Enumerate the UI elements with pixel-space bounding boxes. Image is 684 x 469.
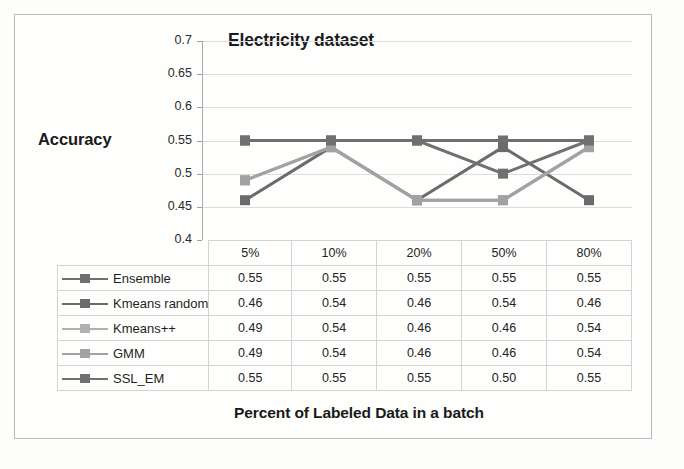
- data-table-body: 5%10%20%50%80%Ensemble0.550.550.550.550.…: [58, 241, 632, 391]
- table-cell: 0.55: [547, 366, 632, 391]
- table-cell: 0.55: [209, 366, 292, 391]
- table-cell: 0.54: [462, 291, 547, 316]
- table-cell: 0.46: [377, 291, 462, 316]
- table-cell: 0.55: [547, 266, 632, 291]
- y-axis-tick-label: 0.55: [148, 133, 192, 147]
- series-gmm: [240, 142, 594, 205]
- y-axis-tickmark: [197, 207, 202, 208]
- legend-key-icon: [62, 273, 108, 284]
- table-column-header: 50%: [462, 241, 547, 266]
- series-line: [245, 147, 589, 200]
- series-marker: [240, 136, 250, 146]
- table-cell: 0.46: [547, 291, 632, 316]
- series-line: [245, 147, 589, 200]
- table-cell: 0.55: [377, 366, 462, 391]
- table-cell: 0.46: [462, 316, 547, 341]
- table-cell: 0.49: [209, 316, 292, 341]
- table-cell: 0.54: [292, 316, 377, 341]
- legend-key-icon: [62, 323, 108, 334]
- legend-label: Ensemble: [113, 271, 171, 286]
- table-cell: 0.55: [292, 266, 377, 291]
- legend-key-icon: [62, 298, 108, 309]
- legend-label: SSL_EM: [113, 371, 164, 386]
- table-cell: 0.54: [547, 341, 632, 366]
- legend-entry-kmeans-: Kmeans++: [58, 316, 209, 341]
- y-axis-tick-labels: 0.70.650.60.550.50.450.4: [148, 41, 194, 240]
- plot-area: [202, 41, 632, 240]
- table-cell: 0.54: [292, 341, 377, 366]
- series-marker: [498, 195, 508, 205]
- series-marker: [412, 195, 422, 205]
- legend-key-icon: [62, 373, 108, 384]
- table-column-header: 5%: [209, 241, 292, 266]
- legend-key-marker: [80, 349, 90, 358]
- table-cell: 0.46: [377, 316, 462, 341]
- x-axis-title: Percent of Labeled Data in a batch: [0, 404, 684, 422]
- table-cell: 0.46: [462, 341, 547, 366]
- table-column-header: 80%: [547, 241, 632, 266]
- table-row: Kmeans random0.460.540.460.540.46: [58, 291, 632, 316]
- table-cell: 0.54: [292, 291, 377, 316]
- table-header-row: 5%10%20%50%80%: [58, 241, 632, 266]
- series-marker: [498, 169, 508, 179]
- y-axis-tick-label: 0.45: [148, 199, 192, 213]
- table-row: SSL_EM0.550.550.550.500.55: [58, 366, 632, 391]
- table-cell: 0.49: [209, 341, 292, 366]
- series-layer: [202, 41, 632, 240]
- series-marker: [498, 142, 508, 152]
- series-marker: [240, 195, 250, 205]
- figure-screenshot: Electricity dataset Accuracy 0.70.650.60…: [0, 0, 684, 469]
- legend-entry-kmeans-random: Kmeans random: [58, 291, 209, 316]
- legend-label: Kmeans random: [113, 296, 208, 311]
- legend-key-marker: [80, 299, 90, 308]
- table-cell: 0.54: [547, 316, 632, 341]
- table-row: Ensemble0.550.550.550.550.55: [58, 266, 632, 291]
- table-row: Kmeans++0.490.540.460.460.54: [58, 316, 632, 341]
- series-marker: [584, 195, 594, 205]
- data-table: 5%10%20%50%80%Ensemble0.550.550.550.550.…: [57, 240, 632, 391]
- y-axis-tickmark: [197, 107, 202, 108]
- table-column-header: 10%: [292, 241, 377, 266]
- legend-label: Kmeans++: [113, 321, 176, 336]
- y-axis-title: Accuracy: [38, 130, 112, 149]
- y-axis-tick-label: 0.6: [148, 99, 192, 113]
- series-line: [245, 147, 589, 200]
- table-cell: 0.50: [462, 366, 547, 391]
- legend-key-marker: [80, 324, 90, 333]
- y-axis-tickmark: [197, 74, 202, 75]
- y-axis-tickmark: [197, 141, 202, 142]
- legend-entry-ssl-em: SSL_EM: [58, 366, 209, 391]
- legend-key-marker: [80, 374, 90, 383]
- y-axis-tick-label: 0.7: [148, 33, 192, 47]
- table-cell: 0.55: [292, 366, 377, 391]
- series-marker: [240, 175, 250, 185]
- table-row: GMM0.490.540.460.460.54: [58, 341, 632, 366]
- series-marker: [326, 136, 336, 146]
- series-marker: [412, 136, 422, 146]
- table-cell: 0.55: [209, 266, 292, 291]
- table-cell: 0.46: [377, 341, 462, 366]
- y-axis-tick-label: 0.65: [148, 66, 192, 80]
- table-corner-cell: [58, 241, 209, 266]
- legend-key-marker: [80, 274, 90, 283]
- legend-label: GMM: [113, 346, 145, 361]
- y-axis-tickmark: [197, 174, 202, 175]
- table-cell: 0.46: [209, 291, 292, 316]
- legend-entry-ensemble: Ensemble: [58, 266, 209, 291]
- table-cell: 0.55: [462, 266, 547, 291]
- y-axis-tick-label: 0.5: [148, 166, 192, 180]
- table-cell: 0.55: [377, 266, 462, 291]
- table-column-header: 20%: [377, 241, 462, 266]
- series-marker: [584, 136, 594, 146]
- y-axis-tickmark: [197, 41, 202, 42]
- legend-entry-gmm: GMM: [58, 341, 209, 366]
- legend-key-icon: [62, 348, 108, 359]
